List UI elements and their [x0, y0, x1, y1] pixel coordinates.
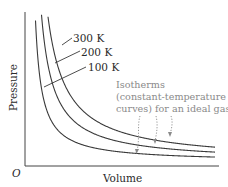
leader-line-300k [62, 38, 72, 45]
x-axis-label: Volume [102, 172, 142, 184]
annotation-line-3: curves) for an ideal gas [116, 103, 228, 114]
isotherm-label-300k: 300 K [73, 32, 104, 44]
annotation-line-2: (constant-temperature [116, 91, 226, 102]
origin-label: O [12, 167, 21, 179]
leader-line-200k [55, 51, 80, 63]
y-axis-label: Pressure [7, 64, 19, 111]
isotherm-label-100k: 100 K [88, 61, 119, 73]
annotation-arrow-200k [155, 116, 157, 141]
arrowhead-200k [153, 139, 157, 144]
isotherm-label-200k: 200 K [81, 46, 112, 58]
arrowhead-300k [168, 132, 172, 137]
isotherm-diagram: 300 K 200 K 100 K Isotherms (constant-te… [0, 0, 228, 187]
annotation-arrow-300k [170, 116, 172, 134]
annotation-line-1: Isotherms [116, 79, 165, 90]
